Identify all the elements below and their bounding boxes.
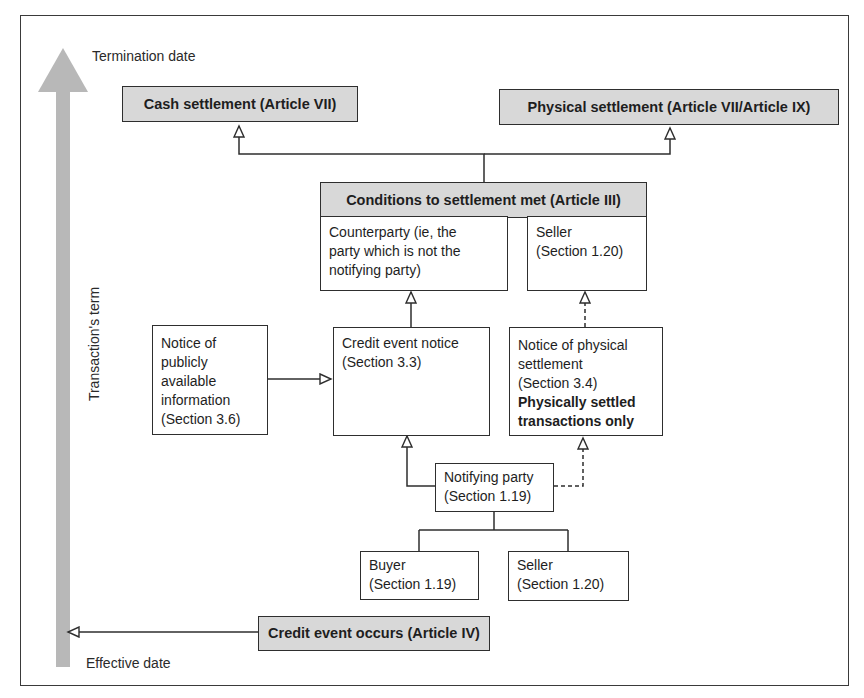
counterparty-line3: notifying party) [329, 261, 499, 280]
public-info-line2: publicly [161, 353, 259, 372]
seller-top-line2: (Section 1.20) [536, 242, 638, 261]
physical-notice-line2: settlement [518, 355, 654, 374]
credit-event-notice-line2: (Section 3.3) [342, 353, 481, 372]
conditions-box: Conditions to settlement met (Article II… [320, 182, 647, 218]
cash-settlement-label: Cash settlement (Article VII) [144, 95, 337, 114]
physical-notice-line1: Notice of physical [518, 336, 654, 355]
effective-date-label: Effective date [86, 655, 171, 671]
seller-bottom-line1: Seller [517, 556, 620, 575]
notifying-party-line1: Notifying party [444, 468, 545, 487]
notifying-party-box: Notifying party (Section 1.19) [435, 463, 554, 512]
termination-date-label: Termination date [92, 48, 196, 64]
public-info-box: Notice of publicly available information… [152, 325, 268, 435]
seller-bottom-line2: (Section 1.20) [517, 575, 620, 594]
public-info-line3: available [161, 372, 259, 391]
transactions-term-label: Transaction's term [86, 284, 102, 404]
buyer-line1: Buyer [369, 556, 470, 575]
seller-top-box: Seller (Section 1.20) [527, 216, 647, 291]
buyer-line2: (Section 1.19) [369, 575, 470, 594]
counterparty-line1: Counterparty (ie, the [329, 223, 499, 242]
physical-notice-bold2: transactions only [518, 412, 654, 431]
physical-settlement-box: Physical settlement (Article VII/Article… [499, 89, 839, 125]
physical-notice-bold1: Physically settled [518, 393, 654, 412]
credit-event-notice-line1: Credit event notice [342, 334, 481, 353]
counterparty-line2: party which is not the [329, 242, 499, 261]
conditions-label: Conditions to settlement met (Article II… [346, 191, 621, 210]
credit-event-occurs-box: Credit event occurs (Article IV) [258, 616, 490, 651]
notifying-party-line2: (Section 1.19) [444, 487, 545, 506]
physical-notice-line3: (Section 3.4) [518, 374, 654, 393]
physical-settlement-label: Physical settlement (Article VII/Article… [528, 98, 811, 117]
public-info-line1: Notice of [161, 334, 259, 353]
credit-event-notice-box: Credit event notice (Section 3.3) [333, 327, 490, 436]
seller-bottom-box: Seller (Section 1.20) [508, 551, 629, 601]
cash-settlement-box: Cash settlement (Article VII) [122, 86, 358, 122]
physical-notice-box: Notice of physical settlement (Section 3… [509, 327, 663, 436]
public-info-line5: (Section 3.6) [161, 410, 259, 429]
credit-event-occurs-label: Credit event occurs (Article IV) [268, 624, 480, 643]
counterparty-box: Counterparty (ie, the party which is not… [320, 216, 508, 291]
public-info-line4: information [161, 391, 259, 410]
seller-top-line1: Seller [536, 223, 638, 242]
buyer-box: Buyer (Section 1.19) [360, 551, 479, 600]
